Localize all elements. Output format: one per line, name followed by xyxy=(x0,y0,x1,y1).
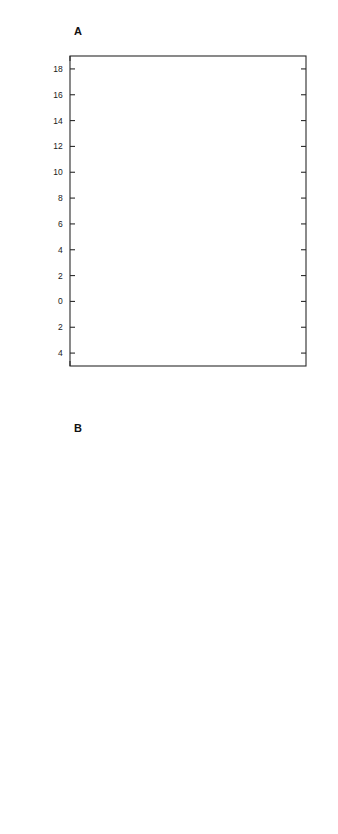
y-tick-label: 2 xyxy=(58,322,63,332)
y-tick-label: 12 xyxy=(53,141,63,151)
y-tick-label: 18 xyxy=(53,64,63,74)
y-tick-label: 4 xyxy=(58,245,63,255)
panel-a: A 18161412108642024 xyxy=(0,0,338,414)
y-tick-label: 14 xyxy=(53,116,63,126)
panel-a-plot: 18161412108642024 xyxy=(0,0,338,414)
y-tick-label: 10 xyxy=(53,167,63,177)
plot-frame xyxy=(70,56,306,366)
y-tick-label: 2 xyxy=(58,271,63,281)
y-tick-label: 8 xyxy=(58,193,63,203)
panel-b-plot xyxy=(0,414,338,834)
y-tick-label: 16 xyxy=(53,90,63,100)
y-tick-label: 0 xyxy=(58,296,63,306)
figure-root: A 18161412108642024 B xyxy=(0,0,338,834)
panel-b: B xyxy=(0,414,338,834)
y-tick-label: 6 xyxy=(58,219,63,229)
y-tick-label: 4 xyxy=(58,348,63,358)
